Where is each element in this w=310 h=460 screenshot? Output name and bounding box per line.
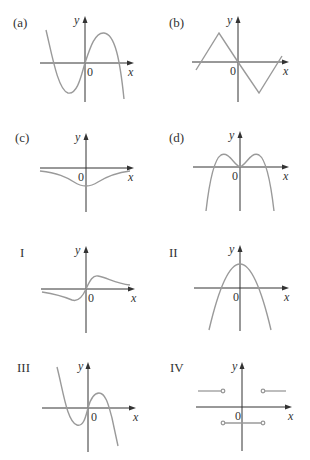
y-arrow-icon	[83, 16, 88, 23]
origin-label: 0	[232, 169, 238, 183]
x-axis-label: x	[127, 170, 134, 184]
curve-b	[196, 33, 282, 93]
x-axis-label: x	[282, 169, 289, 183]
origin-label: 0	[78, 170, 84, 184]
x-axis-label: x	[282, 64, 289, 78]
y-arrow-icon	[238, 245, 243, 252]
graph-I: y x 0	[0, 230, 155, 345]
curve-c	[40, 171, 130, 186]
graph-a: y x 0	[0, 0, 155, 115]
x-axis-label: x	[130, 291, 137, 305]
origin-label: 0	[91, 410, 97, 424]
panel-d: (d) y x 0	[155, 115, 310, 230]
graph-b: y x 0	[155, 0, 310, 115]
x-axis-label: x	[127, 65, 134, 79]
x-axis-label: x	[132, 410, 139, 424]
y-axis-label: y	[228, 128, 235, 142]
origin-label: 0	[230, 64, 236, 78]
panel-IV: IV y x 0	[155, 345, 310, 460]
origin-label: 0	[235, 409, 241, 423]
y-arrow-icon	[84, 246, 89, 253]
open-endpoint-icon	[261, 389, 265, 393]
graph-c: y x 0	[0, 115, 155, 230]
origin-label: 0	[87, 65, 93, 79]
panel-I: I y x 0	[0, 230, 155, 345]
open-endpoint-icon	[221, 389, 225, 393]
y-axis-label: y	[228, 242, 235, 256]
panel-II: II y x 0	[155, 230, 310, 345]
y-axis-label: y	[74, 130, 81, 144]
panel-c: (c) y x 0	[0, 115, 155, 230]
origin-label: 0	[233, 290, 239, 304]
graph-II: y x 0	[155, 230, 310, 345]
y-axis-label: y	[77, 359, 84, 373]
y-axis-label: y	[74, 243, 81, 257]
graph-III: y x 0	[0, 345, 155, 460]
origin-label: 0	[88, 291, 94, 305]
y-arrow-icon	[84, 133, 89, 140]
x-axis-label: x	[283, 290, 290, 304]
panel-III: III y x 0	[0, 345, 155, 460]
y-axis-label: y	[226, 13, 233, 27]
open-endpoint-icon	[221, 421, 225, 425]
y-axis-label: y	[73, 13, 80, 27]
x-axis-label: x	[287, 409, 294, 423]
y-arrow-icon	[236, 16, 241, 23]
y-axis-label: y	[231, 359, 238, 373]
graph-d: y x 0	[155, 115, 310, 230]
graph-IV: y x 0	[155, 345, 310, 460]
panel-a: (a) y x 0	[0, 0, 155, 115]
y-arrow-icon	[240, 362, 245, 369]
y-arrow-icon	[86, 362, 91, 369]
open-endpoint-icon	[261, 421, 265, 425]
panel-b: (b) y x 0	[155, 0, 310, 115]
y-arrow-icon	[238, 131, 243, 138]
